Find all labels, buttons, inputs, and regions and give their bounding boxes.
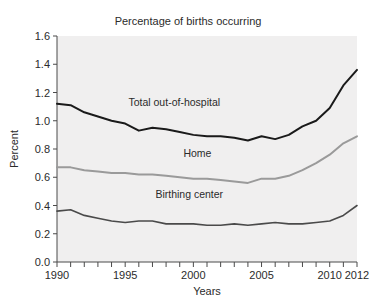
y-tick-label: 1.4	[35, 58, 50, 70]
series-label: Home	[183, 147, 211, 159]
line-chart-plot: 0.00.20.40.60.81.01.21.41.6 199019952000…	[0, 0, 376, 298]
x-tick-label: 1990	[45, 269, 69, 281]
x-axis-title: Years	[193, 285, 221, 297]
chart-container: Percentage of births occurring out-of-ho…	[0, 0, 376, 298]
x-tick-label: 1995	[113, 269, 137, 281]
x-axis-ticks: 199019952000200520102012	[45, 262, 369, 281]
x-tick-label: 2000	[181, 269, 205, 281]
y-tick-label: 1.6	[35, 30, 50, 42]
y-axis-ticks: 0.00.20.40.60.81.01.21.41.6	[35, 30, 57, 268]
y-tick-label: 1.2	[35, 87, 50, 99]
y-tick-label: 0.4	[35, 200, 50, 212]
x-tick-label: 2005	[249, 269, 273, 281]
series-label: Total out-of-hospital	[128, 96, 220, 108]
y-tick-label: 0.2	[35, 228, 50, 240]
y-tick-label: 0.8	[35, 143, 50, 155]
y-axis-title: Percent	[8, 130, 20, 168]
series-label: Birthing center	[155, 188, 223, 200]
x-tick-label: 2012	[345, 269, 369, 281]
y-tick-label: 0.0	[35, 256, 50, 268]
y-tick-label: 0.6	[35, 171, 50, 183]
y-tick-label: 1.0	[35, 115, 50, 127]
x-tick-label: 2010	[317, 269, 341, 281]
